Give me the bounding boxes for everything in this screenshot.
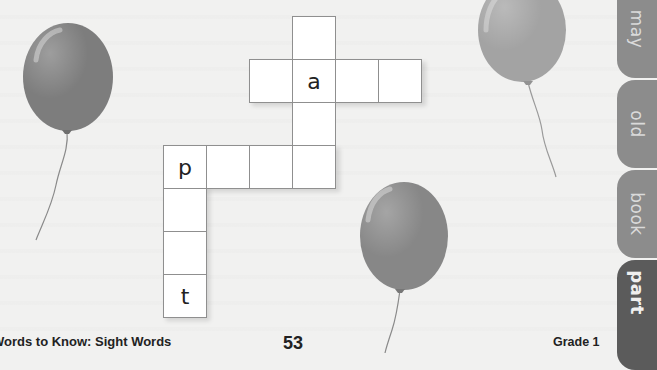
tab-may[interactable]: may [617,0,657,78]
page-number: 53 [283,333,303,354]
bottom-balloon-icon [360,182,448,353]
crossword-cell[interactable]: a [292,59,336,103]
crossword-cell[interactable] [249,145,293,189]
crossword-cell[interactable]: p [163,145,207,189]
crossword-cell[interactable] [206,145,250,189]
tab-label: old [627,110,647,137]
book-title: Words to Know: Sight Words [0,334,171,349]
left-balloon-icon [23,23,113,240]
crossword-cell[interactable] [378,59,422,103]
tab-book[interactable]: book [617,170,657,258]
grade-label: Grade 1 [553,335,600,349]
tab-label: book [627,192,647,235]
crossword-cell[interactable] [163,188,207,232]
crossword-cell[interactable]: t [163,274,207,318]
crossword-cell[interactable] [292,145,336,189]
top-right-balloon-icon [478,0,566,177]
crossword-cell[interactable] [292,16,336,60]
tab-label: may [627,10,647,49]
crossword-cell[interactable] [249,59,293,103]
crossword-cell[interactable] [335,59,379,103]
crossword-cell[interactable] [292,102,336,146]
tab-old[interactable]: old [617,80,657,168]
tab-label: part [627,270,648,315]
tab-part[interactable]: part [617,260,657,370]
crossword-cell[interactable] [163,231,207,275]
